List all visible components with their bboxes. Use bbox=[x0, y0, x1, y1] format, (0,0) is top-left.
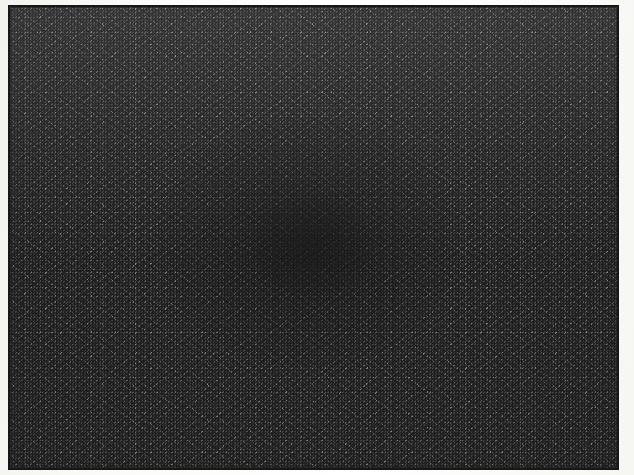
noise-plate bbox=[8, 5, 619, 470]
noise-layer-7 bbox=[10, 7, 617, 468]
noise-field bbox=[10, 7, 617, 468]
scan-page: Random noise field with central radial v… bbox=[0, 0, 634, 475]
